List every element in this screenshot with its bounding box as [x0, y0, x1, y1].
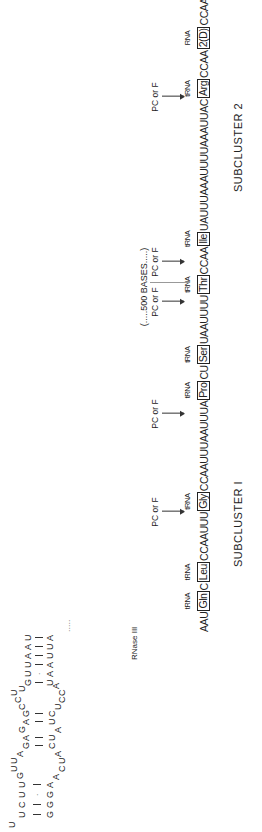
hairpin-base: U [24, 662, 33, 669]
trna-leu: Leu [197, 564, 209, 580]
trna-thr-box: tRNA Thr [197, 275, 210, 294]
down-arrow-icon [162, 301, 184, 302]
trna-label: tRNA [184, 347, 192, 363]
trna-ser-box: tRNA Ser [197, 345, 210, 364]
base-pair-line [35, 655, 43, 656]
seq-segment: CCA [198, 540, 210, 561]
trna-leu-box: tRNA Leu [197, 562, 210, 582]
hairpin-base: U [46, 644, 55, 651]
seq-segment: CCAA [198, 247, 210, 275]
down-arrow-icon [162, 511, 184, 512]
cleavage-label: PC or F [150, 247, 160, 276]
cleavage-site-5: PC or F [150, 82, 160, 111]
wobble-dot: · [33, 794, 42, 796]
gap-label: (.....500 BASES.....) [139, 248, 149, 327]
trna-ile-box: tRNA Ile [197, 232, 210, 246]
base-pair-line [35, 737, 43, 738]
base-pair-line [35, 646, 43, 647]
base-pair-line [33, 814, 41, 815]
down-arrow-icon [162, 413, 184, 414]
hairpin-base: U [48, 735, 57, 742]
cleavage-label: PC or F [150, 82, 160, 111]
base-pair-line [35, 637, 43, 638]
down-arrow-icon [162, 96, 184, 97]
hairpin-base: C [48, 711, 57, 718]
seq-segment: CCA [198, 5, 210, 26]
hairpin-base: U [10, 766, 19, 773]
hairpin-base: G [22, 742, 31, 749]
trna-label: tRNA [184, 80, 192, 96]
trna-arg-box: tRNA Arg [197, 79, 210, 98]
trna-gln-box: tRNA Gln [197, 591, 210, 610]
hairpin-base: U [24, 635, 33, 642]
trna-label: tRNA [184, 564, 192, 580]
hairpin-base: U [18, 812, 27, 819]
trna-gly-box: tRNA Gly [197, 492, 210, 511]
hairpin-base: U [46, 653, 55, 660]
cleavage-label: PC or F [150, 399, 160, 428]
seq-segment: CU [198, 365, 210, 379]
seq-segment: AAAUUU [198, 154, 210, 195]
hairpin-base: U [18, 686, 27, 693]
cleavage-site-4: PC or F [150, 247, 160, 276]
rna-2d: 2(D) [197, 29, 209, 48]
hairpin-base: C [58, 690, 67, 697]
seq-segment: AAUUAU [198, 0, 210, 5]
hairpin-base: U [48, 719, 57, 726]
hairpin-base: G [46, 811, 55, 818]
seq-segment: UUUAAUUUA [198, 401, 210, 464]
hairpin-base: A [46, 782, 55, 788]
cleavage-site-2: PC or F [150, 399, 160, 428]
base-pair-line [35, 713, 43, 714]
seq-segment: UAU [198, 210, 210, 231]
trna-label: tRNA [184, 382, 192, 398]
hairpin-base: U [46, 680, 55, 687]
down-arrow-icon [162, 261, 184, 262]
hairpin-base: A [24, 644, 33, 650]
hairpin-base: U [54, 704, 63, 711]
rnase-iii-text: RNase III [130, 627, 139, 660]
trna-pro: Pro [197, 383, 209, 398]
seq-segment: CCAA [198, 50, 210, 78]
seq-segment: C [198, 583, 210, 590]
seq-segment: UAAAUUAC [198, 99, 210, 154]
hairpin-base: G [18, 726, 27, 733]
base-pair-line [35, 682, 43, 683]
hairpin-base: A [46, 662, 55, 668]
trna-gly: Gly [197, 494, 209, 509]
trna-arg: Arg [197, 81, 209, 96]
seq-segment: AUUU [198, 512, 210, 540]
hairpin-base: G [46, 801, 55, 808]
trna-label: tRNA [184, 593, 192, 609]
hairpin-base: A [52, 774, 61, 780]
subcluster-1-label: SUBCLUSTER I [232, 481, 244, 567]
base-pair-line [35, 664, 43, 665]
trna-pro-box: tRNA Pro [197, 381, 210, 400]
hairpin-base: A [46, 671, 55, 677]
subcluster-2-label: SUBCLUSTER 2 [232, 103, 244, 192]
trna-label: tRNA [184, 493, 192, 509]
rna-2d-box: RNA 2(D) [197, 27, 210, 50]
hairpin-base: G [24, 679, 33, 686]
hairpin-base: C [58, 697, 67, 704]
base-pair-line [35, 745, 43, 746]
hairpin-base: U [10, 758, 19, 765]
hairpin-base: A [16, 751, 25, 757]
hairpin-base: U [18, 782, 27, 789]
base-pair-line [35, 721, 43, 722]
hairpin-base: U [24, 671, 33, 678]
cleavage-label: PC or F [150, 287, 160, 316]
trna-label: tRNA [184, 231, 192, 247]
sequence-strand: AAU tRNA Gln C tRNA Leu CCA AUUU tRNA Gl… [197, 0, 210, 632]
seq-segment: UU [198, 196, 210, 210]
trna-thr: Thr [197, 277, 209, 292]
hairpin-base: A [46, 635, 55, 641]
hairpin-base: A [24, 653, 33, 659]
hairpin-base: U [18, 792, 27, 799]
hairpin-base: A [54, 727, 63, 733]
hairpin-base: A [22, 735, 31, 741]
hairpin-loop-base: U [8, 822, 17, 829]
hairpin-base: C [48, 743, 57, 750]
rnase-iii-label: RNase III [130, 627, 139, 660]
hairpin-base: G [16, 772, 25, 779]
